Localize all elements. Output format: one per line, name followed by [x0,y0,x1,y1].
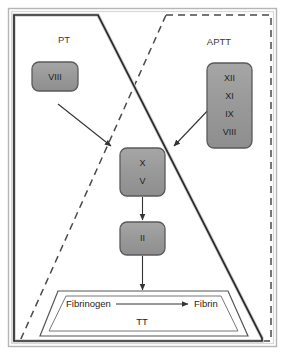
factor-label-ii: II [140,233,145,243]
factor-box-viii-left[interactable]: VIII [32,62,78,91]
factor-label-viii: VIII [223,127,237,137]
factor-box-ii[interactable]: II [120,222,165,255]
arrow-intrinsic-to-xv [174,106,212,146]
factor-label-xii: XII [224,73,235,83]
factor-label-ix: IX [225,109,234,119]
fibrinogen-label: Fibrinogen [66,298,111,309]
factor-label-x: X [139,158,145,168]
factor-label-v: V [139,176,145,186]
factor-box-intrinsic[interactable]: XII XI IX VIII [207,63,252,148]
fibrin-label: Fibrin [194,298,218,309]
coagulation-cascade-diagram: PT APTT VIII XII XI IX VIII [0,0,285,357]
factor-label-xi: XI [225,91,234,101]
factor-label: VIII [48,72,62,82]
factor-box-x-v[interactable]: X V [120,148,165,196]
region-label-pt: PT [58,34,70,45]
arrow-viii-to-xv [58,104,111,146]
region-label-aptt: APTT [207,36,231,47]
tt-label: TT [136,316,148,327]
diagram-canvas: PT APTT VIII XII XI IX VIII [0,0,285,357]
